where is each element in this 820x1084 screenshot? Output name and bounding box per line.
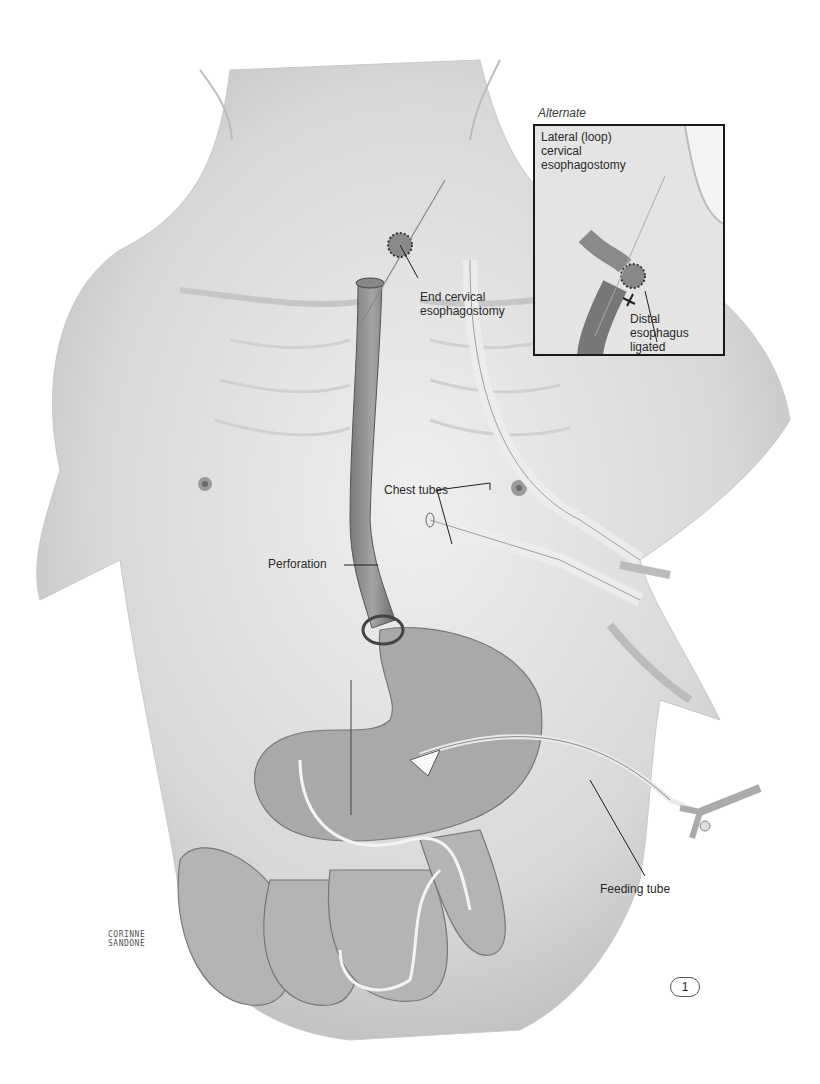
inset-alternate-panel: Lateral (loop) cervical esophagostomy Di… — [533, 124, 725, 356]
label-feeding-tube: Feeding tube — [600, 882, 670, 896]
label-perforation: Perforation — [268, 557, 327, 571]
figure-number-badge: 1 — [670, 977, 700, 997]
label-chest-tubes: Chest tubes — [384, 483, 448, 497]
label-end-cervical-esophagostomy: End cervical esophagostomy — [420, 290, 505, 318]
artist-signature: CORINNE SANDONE — [108, 930, 145, 948]
inset-title-lateral-loop: Lateral (loop) cervical esophagostomy — [541, 130, 626, 172]
inset-label-distal-esophagus: Distal esophagus ligated — [630, 312, 689, 354]
inset-heading: Alternate — [538, 106, 586, 120]
